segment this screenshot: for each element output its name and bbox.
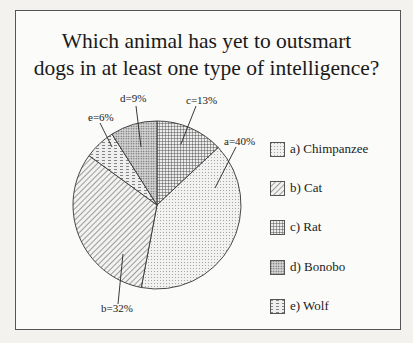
legend-swatch-grid-icon bbox=[270, 220, 285, 235]
label-a: a=40% bbox=[224, 135, 255, 147]
legend-swatch-fine-dots-icon bbox=[270, 142, 285, 157]
legend-item-cat: b) Cat bbox=[270, 180, 322, 196]
legend-label: b) Cat bbox=[290, 180, 322, 196]
legend-swatch-dense-dots-icon bbox=[270, 260, 285, 275]
legend-item-bonobo: d) Bonobo bbox=[270, 259, 345, 275]
legend-swatch-diagonal-hatch-icon bbox=[270, 181, 285, 196]
legend-item-wolf: e) Wolf bbox=[270, 298, 329, 314]
legend-label: c) Rat bbox=[290, 219, 321, 235]
legend-label: a) Chimpanzee bbox=[290, 141, 368, 157]
legend-swatch-dashed-lines-icon bbox=[270, 299, 285, 314]
label-e: e=6% bbox=[88, 111, 114, 123]
pie-chart: a=40% b=32% c=13% d=9% e=6% bbox=[0, 0, 413, 343]
legend-label: d) Bonobo bbox=[290, 259, 345, 275]
legend-item-chimpanzee: a) Chimpanzee bbox=[270, 141, 368, 157]
label-d: d=9% bbox=[120, 92, 146, 104]
label-c: c=13% bbox=[186, 94, 217, 106]
label-b: b=32% bbox=[101, 302, 133, 314]
legend-item-rat: c) Rat bbox=[270, 219, 321, 235]
legend-label: e) Wolf bbox=[290, 298, 329, 314]
